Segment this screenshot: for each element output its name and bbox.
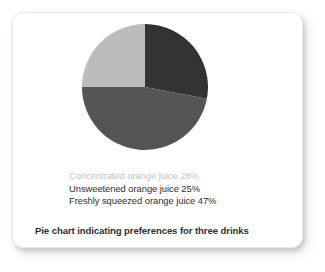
legend-item-unsweetened-orange-juice: Unsweetened orange juice 25% — [69, 183, 299, 196]
pie-slice-freshly-squeezed-orange-juice — [82, 87, 207, 150]
chart-card: Concentrated orange juice 28% Unsweetene… — [12, 12, 303, 248]
screenshot-root: Concentrated orange juice 28% Unsweetene… — [0, 0, 325, 272]
pie-chart-legend: Concentrated orange juice 28% Unsweetene… — [69, 170, 299, 208]
pie-slice-concentrated-orange-juice — [145, 24, 208, 99]
legend-item-concentrated-orange-juice: Concentrated orange juice 28% — [69, 170, 299, 183]
pie-chart-svg — [80, 22, 210, 152]
chart-caption: Pie chart indicating preferences for thr… — [35, 225, 249, 236]
legend-item-freshly-squeezed-orange-juice: Freshly squeezed orange juice 47% — [69, 195, 299, 208]
pie-slice-unsweetened-orange-juice — [82, 24, 145, 87]
pie-chart — [80, 22, 210, 152]
